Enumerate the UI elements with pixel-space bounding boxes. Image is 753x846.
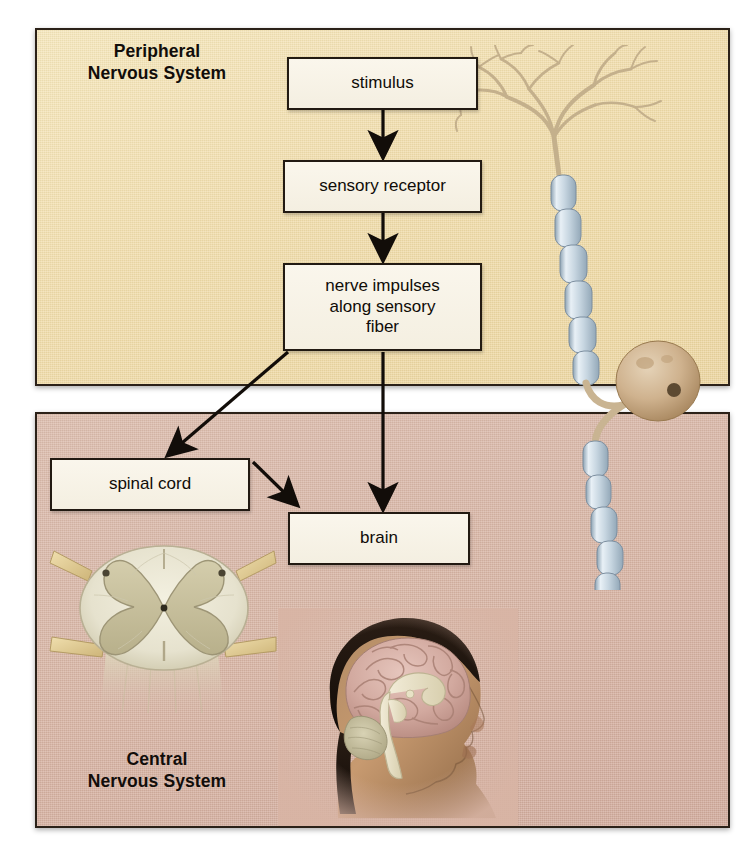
box-sensory-receptor[interactable]: sensory receptor [283, 160, 482, 213]
arrow-impulses-to-spinal-cord [168, 352, 288, 455]
flow-arrows [0, 0, 753, 846]
arrow-spinal-cord-to-brain [253, 462, 297, 505]
box-spinal-cord[interactable]: spinal cord [50, 458, 250, 511]
figure-canvas: Peripheral Nervous System Central Nervou… [0, 0, 753, 846]
box-brain[interactable]: brain [288, 512, 470, 565]
box-stimulus[interactable]: stimulus [287, 57, 478, 110]
box-nerve-impulses-along-sensory-fiber[interactable]: nerve impulses along sensory fiber [283, 263, 482, 351]
